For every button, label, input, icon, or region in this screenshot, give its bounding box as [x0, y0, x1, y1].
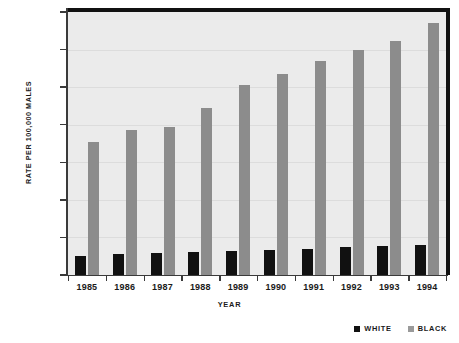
y-axis-title: Rate per 100,000 Males: [24, 53, 33, 213]
bar-white-1987: [151, 253, 162, 275]
plot-area: [68, 12, 446, 275]
legend-item-black[interactable]: Black: [408, 324, 447, 333]
bar-white-1986: [113, 254, 124, 275]
legend-swatch-icon: [354, 326, 360, 332]
bar-black-1994: [428, 23, 439, 275]
x-axis-tick: [106, 275, 107, 281]
gridline: [68, 125, 446, 126]
bar-white-1992: [340, 247, 351, 275]
chart-legend: WhiteBlack: [354, 324, 447, 333]
bar-black-1988: [201, 108, 212, 275]
bar-white-1993: [377, 246, 388, 275]
bar-black-1992: [353, 50, 364, 275]
y-axis-line: [66, 8, 68, 275]
y-axis-tick: [60, 49, 66, 50]
y-axis-tick: [60, 86, 66, 87]
bar-white-1994: [415, 245, 426, 275]
plot-frame-right-border: [446, 8, 450, 275]
y-axis-tick: [60, 199, 66, 200]
x-axis-tick: [370, 275, 371, 281]
y-axis-tick: [60, 237, 66, 238]
gridline: [68, 87, 446, 88]
legend-label: Black: [418, 324, 447, 333]
gridline: [68, 237, 446, 238]
bar-black-1990: [277, 74, 288, 275]
gridline: [68, 162, 446, 163]
y-axis-tick: [60, 274, 66, 275]
bar-white-1990: [264, 250, 275, 275]
x-axis-title: Year: [0, 300, 459, 309]
legend-label: White: [364, 324, 391, 333]
x-axis-tick: [68, 275, 69, 281]
gridline: [68, 50, 446, 51]
bar-chart: Rate per 100,000 Males 01,0002,0003,0004…: [0, 0, 459, 343]
legend-item-white[interactable]: White: [354, 324, 391, 333]
legend-swatch-icon: [408, 326, 414, 332]
x-axis-tick: [295, 275, 296, 281]
x-axis-tick: [181, 275, 182, 281]
bar-black-1991: [315, 61, 326, 275]
bar-white-1988: [188, 252, 199, 275]
x-axis-tick: [144, 275, 145, 281]
x-axis-tick: [408, 275, 409, 281]
y-axis-tick: [60, 11, 66, 12]
bar-black-1987: [164, 127, 175, 275]
x-axis-tick: [219, 275, 220, 281]
gridline: [68, 200, 446, 201]
x-axis-tick-label: 1994: [405, 282, 449, 292]
y-axis-tick: [60, 124, 66, 125]
plot-background: [68, 12, 446, 275]
bar-black-1989: [239, 85, 250, 275]
x-axis-tick: [446, 275, 447, 281]
bar-black-1985: [88, 142, 99, 275]
bar-white-1989: [226, 251, 237, 275]
x-axis-tick: [333, 275, 334, 281]
bar-white-1985: [75, 256, 86, 275]
plot-frame-top-border: [67, 8, 447, 12]
bar-white-1991: [302, 249, 313, 275]
y-axis-tick: [60, 162, 66, 163]
bar-black-1993: [390, 41, 401, 275]
bar-black-1986: [126, 130, 137, 275]
x-axis-tick: [257, 275, 258, 281]
